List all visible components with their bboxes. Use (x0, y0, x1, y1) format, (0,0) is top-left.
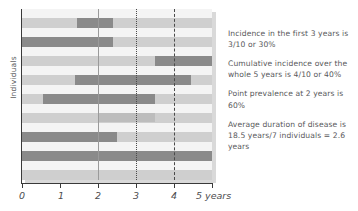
x-tick-label-0: 0 (19, 190, 25, 201)
episode-bar (22, 37, 113, 47)
x-tick (174, 183, 175, 188)
lane-row (22, 123, 212, 132)
x-tick (212, 183, 213, 188)
episode-bar (98, 113, 155, 122)
y-axis-line (21, 9, 22, 184)
x-axis-line (21, 183, 213, 184)
lane-row (22, 161, 212, 170)
note-cumulative-incidence: Cumulative incidence over the whole 5 ye… (228, 58, 358, 81)
lane-row (22, 9, 212, 18)
note-average-duration: Average duration of disease is 18.5 year… (228, 119, 358, 153)
annotation-notes: Incidence in the first 3 years is 3/10 o… (228, 28, 358, 152)
lane-row (22, 170, 212, 180)
episode-bar (77, 18, 113, 28)
lane-row (22, 47, 212, 56)
x-tick-label-4: 4 (171, 190, 177, 201)
lane-row (22, 18, 212, 28)
x-tick-label-3: 3 (133, 190, 139, 201)
x-tick-label-2: 2 (95, 190, 101, 201)
x-tick (136, 183, 137, 188)
episode-bar (155, 56, 212, 66)
lane-row (22, 85, 212, 94)
episode-bar (22, 132, 117, 142)
x-tick (98, 183, 99, 188)
reference-line-4-years (174, 9, 175, 180)
note-point-prevalence: Point prevalence at 2 years is 60% (228, 88, 358, 111)
note-incidence-3-years: Incidence in the first 3 years is 3/10 o… (228, 28, 358, 51)
x-tick (60, 183, 61, 188)
lane-row (22, 66, 212, 75)
reference-line-2-years (98, 9, 99, 180)
x-tick (22, 183, 23, 188)
lane-row (22, 142, 212, 151)
x-tick-label-5: 5 years (196, 190, 231, 201)
epidemiology-timeline-figure: Individuals (0, 0, 358, 211)
panel-shadow-right (212, 12, 216, 183)
lane-row (22, 104, 212, 113)
x-tick-label-1: 1 (58, 190, 64, 201)
lane-row (22, 28, 212, 37)
episode-bar (22, 151, 212, 161)
y-axis-label: Individuals (9, 43, 18, 113)
plot-area (22, 9, 212, 180)
reference-line-3-years (136, 9, 137, 180)
